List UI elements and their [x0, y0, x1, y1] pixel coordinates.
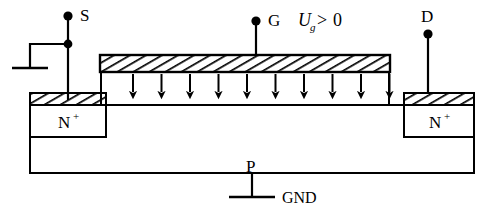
diagram-canvas: N + N +	[0, 0, 484, 224]
source-nplus-region: N +	[30, 105, 106, 137]
mosfet-cross-section-figure: N + N +	[0, 0, 484, 224]
substrate-label-group: P	[246, 157, 255, 176]
substrate-label: P	[246, 157, 255, 176]
source-terminal-label: S	[80, 6, 89, 25]
source-region-label: N	[58, 113, 70, 132]
drain-terminal-dot[interactable]	[423, 29, 432, 38]
gate-terminal-label: G	[268, 11, 280, 30]
gate-oxide-bar	[100, 55, 390, 72]
gate-voltage-annotation: U g > 0	[298, 10, 342, 33]
drain-contact-metal	[404, 93, 474, 105]
drain-region-label: N	[429, 113, 441, 132]
source-region-superscript: +	[73, 110, 79, 122]
drain-terminal-label: D	[421, 7, 433, 26]
source-terminal[interactable]: S	[63, 6, 89, 100]
source-ground-symbol	[12, 44, 68, 68]
gate-terminal[interactable]: G	[251, 11, 280, 56]
electric-field-arrows	[133, 74, 390, 92]
gate-voltage-value: 0	[333, 10, 342, 30]
drain-region-superscript: +	[444, 110, 450, 122]
drain-nplus-region: N +	[404, 105, 474, 137]
substrate-ground-symbol: GND	[229, 173, 317, 206]
gate-terminal-dot[interactable]	[251, 16, 260, 25]
gate-voltage-operator: >	[317, 10, 327, 30]
gate-sidewalls	[101, 72, 389, 105]
gate-voltage-subscript: g	[310, 21, 316, 33]
drain-terminal[interactable]: D	[421, 7, 433, 94]
ground-label: GND	[282, 189, 317, 206]
source-terminal-dot[interactable]	[63, 11, 72, 20]
